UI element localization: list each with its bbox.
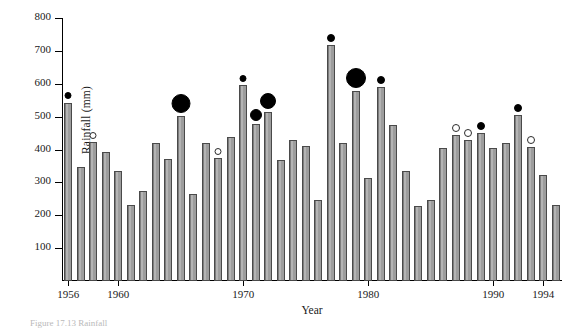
bar xyxy=(114,171,122,281)
bar xyxy=(402,171,410,281)
el-nino-marker xyxy=(240,75,247,82)
bar xyxy=(414,206,422,281)
bar xyxy=(377,87,385,281)
bar xyxy=(89,142,97,281)
bar xyxy=(289,140,297,281)
y-axis-tick-label: 200 xyxy=(35,207,52,219)
y-axis-tick-label: 500 xyxy=(35,109,52,121)
y-axis-tick-label: 600 xyxy=(35,76,52,88)
x-axis-tick-label: 1990 xyxy=(482,288,504,300)
el-nino-marker xyxy=(260,93,276,109)
bar xyxy=(252,124,260,281)
bar xyxy=(139,191,147,281)
y-axis-tick: 800 xyxy=(55,18,62,19)
bar xyxy=(164,159,172,281)
plot-frame xyxy=(62,18,562,281)
x-axis-tick-label: 1956 xyxy=(57,288,79,300)
bar xyxy=(77,167,85,281)
bar xyxy=(314,200,322,281)
x-axis-tick xyxy=(543,281,544,286)
x-axis-tick-label: 1980 xyxy=(357,288,379,300)
bar xyxy=(202,143,210,281)
y-axis-tick: 500 xyxy=(55,117,62,118)
bar xyxy=(514,115,522,281)
bar xyxy=(152,143,160,281)
bar xyxy=(464,140,472,281)
bar xyxy=(189,194,197,281)
bar xyxy=(364,178,372,281)
la-nina-marker xyxy=(452,124,460,132)
bar xyxy=(502,143,510,281)
x-axis-tick-label: 1994 xyxy=(532,288,554,300)
x-axis-tick-label: 1960 xyxy=(107,288,129,300)
bar xyxy=(389,125,397,281)
y-axis-tick: 200 xyxy=(55,215,62,216)
bar xyxy=(552,205,560,281)
bar xyxy=(239,85,247,281)
bar xyxy=(127,205,135,281)
x-axis-tick xyxy=(68,281,69,286)
la-nina-marker xyxy=(90,132,97,139)
y-axis-tick-label: 300 xyxy=(35,174,52,186)
el-nino-marker xyxy=(377,76,385,84)
bar xyxy=(527,147,535,281)
la-nina-marker xyxy=(464,129,472,137)
bar xyxy=(452,135,460,281)
la-nina-marker xyxy=(527,136,535,144)
figure-caption: Figure 17.13 Rainfall xyxy=(30,318,550,328)
bar xyxy=(102,152,110,281)
y-axis-tick-label: 700 xyxy=(35,43,52,55)
y-axis-tick: 600 xyxy=(55,84,62,85)
y-axis-tick: 100 xyxy=(55,248,62,249)
x-axis-tick xyxy=(368,281,369,286)
bar xyxy=(227,137,235,281)
bar xyxy=(327,45,335,281)
rainfall-figure: Rainfall (mm) 100200300400500600700800 1… xyxy=(0,0,571,331)
el-nino-marker xyxy=(327,34,335,42)
el-nino-marker xyxy=(477,122,485,130)
bar xyxy=(214,158,222,281)
y-axis-tick-label: 100 xyxy=(35,240,52,252)
bar xyxy=(64,103,72,282)
el-nino-marker xyxy=(171,94,190,113)
x-axis-title: Year xyxy=(62,304,562,316)
bar xyxy=(439,148,447,281)
el-nino-marker xyxy=(346,68,366,88)
la-nina-marker xyxy=(215,148,222,155)
bar xyxy=(177,116,185,281)
el-nino-marker xyxy=(250,109,262,121)
x-axis-tick xyxy=(493,281,494,286)
x-axis-tick-label: 1970 xyxy=(232,288,254,300)
plot-area: Rainfall (mm) 100200300400500600700800 1… xyxy=(62,18,562,281)
bar xyxy=(352,91,360,281)
bar xyxy=(489,148,497,281)
y-axis-tick: 400 xyxy=(55,150,62,151)
y-axis-tick-label: 800 xyxy=(35,10,52,22)
bar xyxy=(277,160,285,281)
x-axis-tick xyxy=(243,281,244,286)
bar xyxy=(477,133,485,281)
y-axis-tick-label: 400 xyxy=(35,142,52,154)
y-axis-tick: 300 xyxy=(55,182,62,183)
bar xyxy=(264,112,272,281)
y-axis-tick: 700 xyxy=(55,51,62,52)
bar xyxy=(302,146,310,281)
el-nino-marker xyxy=(65,92,72,99)
bar xyxy=(539,175,547,281)
el-nino-marker xyxy=(514,104,522,112)
bar xyxy=(339,143,347,281)
bar xyxy=(427,200,435,281)
x-axis-tick xyxy=(118,281,119,286)
